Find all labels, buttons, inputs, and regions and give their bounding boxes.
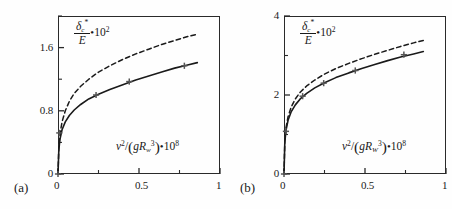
x-tick-label-a-2: 1 <box>216 179 221 191</box>
x-title-ten-exp-b: 8 <box>402 139 406 148</box>
y-title-ten-b: 10 <box>320 26 332 38</box>
y-axis-title-b: δc* E •102 <box>300 20 335 47</box>
x-tick-label-b-2: 1 <box>442 179 447 191</box>
y-tick-label-b-1: 2 <box>274 88 279 100</box>
panel-a: 0 0.8 1.6 0 0.5 1 δc* E •102 v2/(gRw3)•1… <box>0 0 226 209</box>
y-title-exp-a: 2 <box>106 25 110 34</box>
plot-canvas-a <box>0 0 226 209</box>
panel-b: 0 2 4 0 0.5 1 δc* E •102 v2/(gRW3)•108 (… <box>226 0 452 209</box>
x-title-ten-exp-a: 8 <box>175 139 179 148</box>
y-title-denominator-a: E <box>74 34 90 47</box>
x-title-ten-a: 10 <box>164 140 176 152</box>
x-tick-label-b-0: 0 <box>280 179 285 191</box>
y-axis-title-a: δc* E •102 <box>74 20 109 47</box>
y-tick-label-b-0: 0 <box>274 167 279 179</box>
panel-label-b: (b) <box>240 180 255 196</box>
y-title-denominator-b: E <box>300 34 316 47</box>
x-title-R-a: R <box>139 140 146 152</box>
y-tick-label-b-2: 4 <box>274 9 279 21</box>
plot-canvas-b <box>226 0 452 209</box>
figure-container: 0 0.8 1.6 0 0.5 1 δc* E •102 v2/(gRw3)•1… <box>0 0 452 209</box>
x-tick-label-b-1: 0.5 <box>361 179 374 191</box>
x-tick-label-a-0: 0 <box>54 179 59 191</box>
x-title-R-b: R <box>365 140 372 152</box>
y-title-exp-b: 2 <box>332 25 336 34</box>
y-tick-label-a-2: 1.6 <box>40 41 53 53</box>
y-title-ten-a: 10 <box>94 26 106 38</box>
x-tick-label-a-1: 0.5 <box>135 179 148 191</box>
x-title-ten-b: 10 <box>391 140 403 152</box>
panel-label-a: (a) <box>14 180 28 196</box>
y-tick-label-a-1: 0.8 <box>40 104 53 116</box>
x-axis-title-b: v2/(gRW3)•108 <box>342 138 406 156</box>
y-tick-label-a-0: 0 <box>48 167 53 179</box>
y-title-sup-b: * <box>311 18 315 27</box>
y-title-sup-a: * <box>85 18 89 27</box>
x-axis-title-a: v2/(gRw3)•108 <box>116 138 179 156</box>
